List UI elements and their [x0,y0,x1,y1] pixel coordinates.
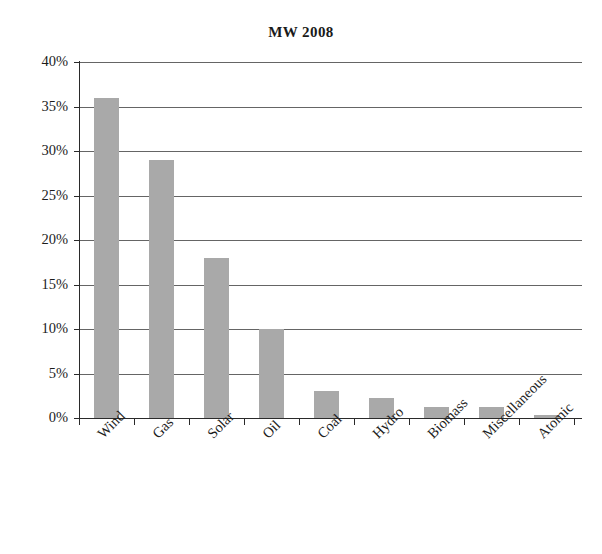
y-axis-tick-label: 10% [0,321,68,335]
x-tick-mark [464,419,465,425]
bar-oil[interactable] [259,329,284,418]
y-axis-tick-label: 20% [0,232,68,246]
x-tick-mark [354,419,355,425]
y-axis-tick-label: 40% [0,54,68,68]
x-tick-mark [189,419,190,425]
y-axis-tick-label: 25% [0,188,68,202]
bar-chart: MW 2008 40%35%30%25%20%15%10%5%0% WindGa… [0,0,602,554]
x-axis-label-oil: Oil [259,417,284,442]
y-axis-tick-label: 30% [0,143,68,157]
gridline-35pct [80,107,582,108]
chart-title: MW 2008 [0,24,602,41]
bar-gas[interactable] [149,160,174,418]
bar-solar[interactable] [204,258,229,418]
x-tick-mark [244,419,245,425]
plot-area [80,62,582,418]
x-tick-mark [299,419,300,425]
y-axis-tick-label: 35% [0,99,68,113]
y-axis-tick-label: 15% [0,277,68,291]
gridline-40pct [80,62,582,63]
x-tick-mark [79,419,80,425]
bar-wind[interactable] [94,98,119,418]
y-axis-tick-label: 5% [0,366,68,380]
x-tick-mark [409,419,410,425]
y-axis-tick-label: 0% [0,410,68,424]
x-tick-mark [134,419,135,425]
x-tick-mark [574,419,575,425]
x-tick-mark [519,419,520,425]
gridline-30pct [80,151,582,152]
